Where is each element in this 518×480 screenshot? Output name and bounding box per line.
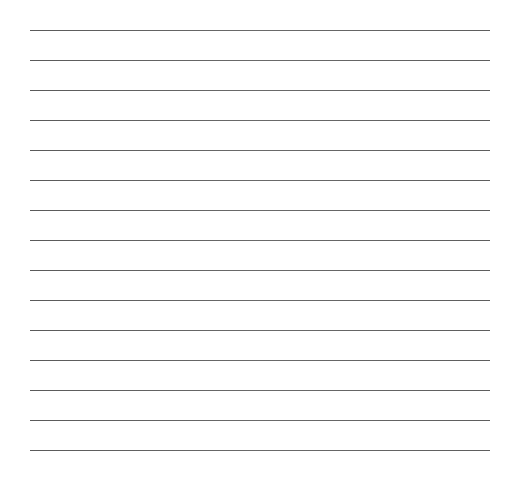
- ruled-line: [30, 330, 490, 331]
- ruled-line: [30, 240, 490, 241]
- ruled-line: [30, 60, 490, 61]
- ruled-line: [30, 450, 490, 451]
- ruled-line: [30, 390, 490, 391]
- ruled-line: [30, 210, 490, 211]
- ruled-line: [30, 150, 490, 151]
- ruled-line: [30, 30, 490, 31]
- ruled-line: [30, 120, 490, 121]
- ruled-line: [30, 420, 490, 421]
- ruled-line: [30, 270, 490, 271]
- ruled-line: [30, 90, 490, 91]
- ruled-line: [30, 300, 490, 301]
- ruled-line: [30, 360, 490, 361]
- ruled-line: [30, 180, 490, 181]
- lined-paper-page: [0, 0, 518, 480]
